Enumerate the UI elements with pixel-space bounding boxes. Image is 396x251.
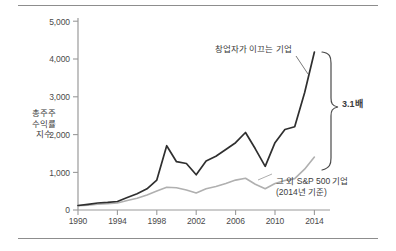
founder-led-leader-line bbox=[296, 56, 308, 74]
x-tick-label-2010: 2010 bbox=[255, 216, 295, 226]
y-tick-label-0: 0 bbox=[36, 205, 70, 215]
multiple-annotation-label: 3.1배 bbox=[342, 99, 363, 110]
y-tick-label-1000: 1,000 bbox=[36, 168, 70, 178]
y-axis-title-line2: 수익률 bbox=[21, 119, 67, 130]
y-axis-title-line3: 지수 bbox=[21, 129, 67, 140]
multiple-brace bbox=[322, 52, 338, 170]
founder-led-series-label: 창업자가 이끄는 기업 bbox=[215, 44, 292, 55]
x-tick-label-2006: 2006 bbox=[216, 216, 256, 226]
y-axis-ticks bbox=[73, 21, 78, 210]
y-tick-label-3000: 3,000 bbox=[36, 92, 70, 102]
sp500-series-label-line1: 그 외 S&P 500 기업 bbox=[276, 176, 348, 187]
x-axis-ticks bbox=[78, 210, 314, 215]
x-tick-label-1990: 1990 bbox=[58, 216, 98, 226]
x-tick-label-2002: 2002 bbox=[176, 216, 216, 226]
x-tick-label-2014: 2014 bbox=[294, 216, 334, 226]
y-tick-label-4000: 4,000 bbox=[36, 54, 70, 64]
x-tick-label-1998: 1998 bbox=[137, 216, 177, 226]
sp500-leader-line bbox=[258, 174, 272, 180]
y-axis-title-line1: 총주주 bbox=[21, 108, 67, 119]
sp500-series-label-line2: (2014년 기준) bbox=[276, 187, 327, 198]
chart-figure: 5,000 4,000 3,000 2,000 1,000 0 1990 199… bbox=[0, 0, 396, 251]
x-tick-label-1994: 1994 bbox=[97, 216, 137, 226]
y-tick-label-5000: 5,000 bbox=[36, 17, 70, 27]
